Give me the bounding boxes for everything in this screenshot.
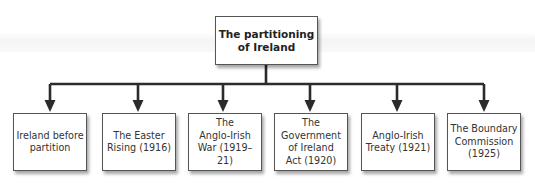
arrow-head-icon [133, 100, 144, 112]
arrow-head-icon [479, 100, 490, 112]
child-node-boundary-commission: The Boundary Commission (1925) [447, 113, 521, 171]
child-node-easter-rising: The Easter Rising (1916) [102, 113, 176, 171]
diagram-canvas: The partitioning of Ireland Ireland befo… [0, 0, 535, 184]
child-node-ireland-before-partition: Ireland before partition [13, 113, 87, 171]
arrow-head-icon [392, 100, 403, 112]
arrow-head-icon [45, 100, 56, 112]
child-node-anglo-irish-war: The Anglo-Irish War (1919–21) [188, 113, 262, 171]
arrow-head-icon [218, 100, 229, 112]
child-node-anglo-irish-treaty: Anglo-Irish Treaty (1921) [361, 113, 435, 171]
child-node-label: The Boundary Commission (1925) [450, 123, 517, 161]
child-node-label: The Government of Ireland Act (1920) [281, 117, 341, 167]
child-node-label: Ireland before partition [16, 130, 83, 155]
child-node-label: The Anglo-Irish War (1919–21) [191, 117, 259, 167]
root-node: The partitioning of Ireland [215, 16, 318, 65]
arrow-head-icon [305, 100, 316, 112]
child-node-label: Anglo-Irish Treaty (1921) [366, 130, 430, 155]
child-node-label: The Easter Rising (1916) [107, 130, 171, 155]
child-node-government-of-ireland-act: The Government of Ireland Act (1920) [274, 113, 348, 171]
root-node-label: The partitioning of Ireland [219, 28, 315, 54]
